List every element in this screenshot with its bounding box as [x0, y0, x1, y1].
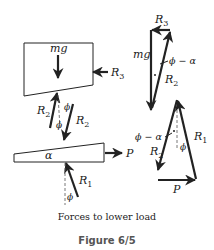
angle-dot — [154, 74, 156, 76]
wedge-outline — [14, 143, 104, 162]
tri-r3-label: R3 — [154, 13, 168, 28]
diagram-caption: Forces to lower load — [58, 211, 156, 222]
upper-force-triangle: R3 mg ϕ − α R2 — [133, 13, 196, 110]
p-label: P — [125, 147, 134, 160]
tri2-r1-label: R1 — [193, 130, 207, 145]
r3-label: R3 — [110, 66, 124, 81]
r2-right-label: R2 — [75, 114, 89, 129]
tri2-r2-label: R2 — [149, 145, 163, 160]
tri2-phi-label: ϕ — [180, 142, 186, 152]
tri2-angle-dot — [173, 130, 175, 132]
r2-left-label: R2 — [36, 104, 50, 119]
tri-r2-label: R2 — [164, 73, 178, 88]
r1-label: R1 — [78, 174, 92, 189]
phi-wedge-label: ϕ — [67, 192, 73, 202]
phi-upper-label: ϕ — [64, 102, 70, 112]
lower-force-triangle: ϕ − α R2 R1 ϕ P — [135, 100, 207, 196]
wedge-force-diagram: mg R3 R2 R2 ϕ ϕ α P R1 ϕ R3 mg ϕ − α R2 — [0, 0, 214, 250]
tri-upper-angle-label: ϕ − α — [169, 55, 196, 66]
interface-forces: R2 R2 ϕ ϕ — [36, 93, 89, 140]
wedge: α P R1 ϕ — [14, 143, 134, 205]
phi-lower-label: ϕ — [56, 120, 62, 130]
weight-label: mg — [50, 42, 67, 55]
figure-label: Figure 6/5 — [78, 235, 135, 246]
tri-mg-label: mg — [133, 48, 150, 61]
alpha-label: α — [45, 149, 53, 162]
tri2-p-label: P — [172, 183, 181, 196]
load-block: mg R3 — [24, 42, 124, 96]
tri2-angle-label: ϕ − α — [135, 131, 162, 142]
tri-r2-arrow-icon — [152, 32, 170, 108]
